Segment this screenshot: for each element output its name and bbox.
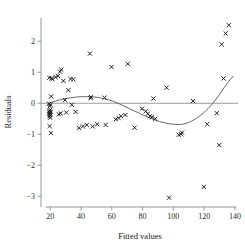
scatter-point-marker bbox=[227, 23, 231, 27]
scatter-point-marker bbox=[126, 62, 130, 66]
scatter-points-group bbox=[47, 23, 231, 200]
scatter-point-marker bbox=[224, 31, 228, 35]
lowess-smoother-group bbox=[49, 76, 234, 125]
scatter-point-marker bbox=[95, 122, 99, 126]
scatter-point-marker bbox=[77, 126, 81, 130]
y-axis-tick-label: −3 bbox=[26, 192, 35, 201]
y-axis-tick-label: 2 bbox=[31, 37, 35, 46]
y-axis-tick-label: −1 bbox=[26, 130, 35, 139]
scatter-point-marker bbox=[205, 122, 209, 126]
lowess-smoother-curve bbox=[49, 76, 234, 125]
scatter-point-marker bbox=[104, 123, 108, 127]
scatter-point-marker bbox=[66, 88, 70, 92]
x-axis-tick-label: 60 bbox=[108, 212, 116, 221]
scatter-point-marker bbox=[151, 96, 155, 100]
x-axis-tick-label: 40 bbox=[77, 212, 85, 221]
y-axis-tick-label: −2 bbox=[26, 161, 35, 170]
scatter-point-marker bbox=[88, 52, 92, 56]
scatter-point-marker bbox=[220, 42, 224, 46]
scatter-point-marker bbox=[167, 196, 171, 200]
y-axis-tick-label: 1 bbox=[31, 68, 35, 77]
scatter-point-marker bbox=[202, 185, 206, 189]
scatter-point-marker bbox=[109, 65, 113, 69]
scatter-point-marker bbox=[59, 68, 63, 72]
scatter-point-marker bbox=[217, 143, 221, 147]
scatter-point-marker bbox=[64, 110, 68, 114]
scatter-point-marker bbox=[191, 99, 195, 103]
plot-canvas: 20406080100120140 210−1−2−3 Fitted value… bbox=[0, 0, 245, 245]
scatter-point-marker bbox=[132, 126, 136, 130]
scatter-point-marker bbox=[85, 123, 89, 127]
x-axis-tick-label: 20 bbox=[46, 212, 54, 221]
scatter-point-marker bbox=[49, 131, 53, 135]
x-axis-tick-label: 100 bbox=[167, 212, 179, 221]
scatter-point-marker bbox=[48, 124, 52, 128]
scatter-point-marker bbox=[119, 114, 123, 118]
scatter-point-marker bbox=[61, 79, 65, 83]
scatter-point-marker bbox=[49, 94, 53, 98]
scatter-point-marker bbox=[221, 76, 225, 80]
x-axis-ticks-group: 20406080100120140 bbox=[46, 207, 241, 221]
x-axis-tick-label: 120 bbox=[198, 212, 210, 221]
scatter-point-marker bbox=[123, 113, 127, 117]
x-axis-tick-label: 140 bbox=[229, 212, 241, 221]
residuals-vs-fitted-plot: 20406080100120140 210−1−2−3 Fitted value… bbox=[0, 0, 245, 245]
y-axis-tick-label: 0 bbox=[31, 99, 35, 108]
x-axis-tick-label: 80 bbox=[139, 212, 147, 221]
scatter-point-marker bbox=[91, 124, 95, 128]
scatter-point-marker bbox=[71, 77, 75, 81]
y-axis-title: Residuals bbox=[3, 95, 13, 128]
scatter-point-marker bbox=[74, 110, 78, 114]
scatter-point-marker bbox=[140, 107, 144, 111]
y-axis-ticks-group: 210−1−2−3 bbox=[26, 37, 41, 201]
x-axis-title: Fitted values bbox=[118, 231, 162, 241]
scatter-point-marker bbox=[164, 86, 168, 90]
scatter-point-marker bbox=[215, 111, 219, 115]
scatter-point-marker bbox=[81, 124, 85, 128]
